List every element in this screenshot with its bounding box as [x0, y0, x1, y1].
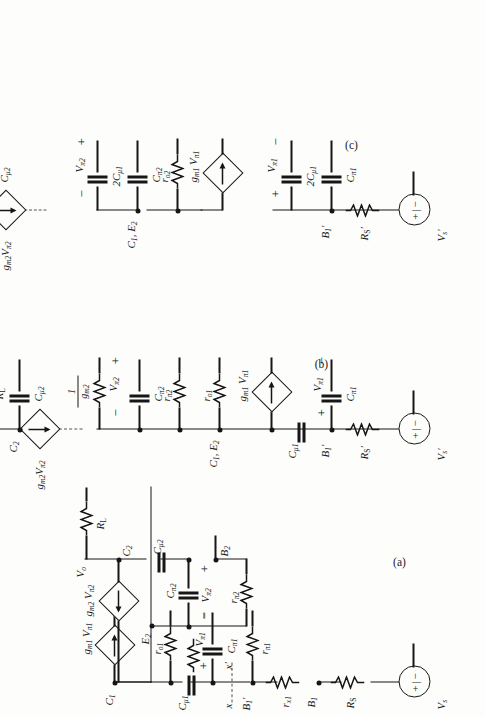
dependent-source-gm2-a — [99, 582, 137, 620]
ground-icon-rpi2-b — [170, 343, 188, 357]
ground-icon-cpi2-c — [128, 126, 146, 140]
panel-caption-b: (b) — [314, 357, 327, 369]
ground-icon-cpi2-b — [130, 345, 148, 359]
wire-b1p-cpi1-c — [330, 186, 331, 210]
panel-c: +|− Vs′ RS′ B1′ Cπ1 2Cμ1 + − Vπ1 gm1 Vπ1… — [0, 0, 485, 244]
figure-page: +|− Vs RS B1 rx1 B1′ rπ1 x x′ Cπ1 + − Vπ… — [0, 0, 485, 716]
wire-b2-col — [215, 558, 246, 559]
dependent-source-gm2-c — [0, 191, 24, 229]
wire-ro2-c — [176, 188, 177, 210]
wire-cmu2-upper — [118, 558, 146, 559]
wire-b1p-cpi1-b — [330, 405, 331, 429]
panel-a-right: rπ2 B2 Cπ2 − + Vπ2 Cμ2 C2 gm2 Vπ2 Vo RL — [0, 466, 485, 716]
resistor-inv-gm2-b — [92, 373, 106, 407]
label-cpi2-a: Cπ2 — [163, 583, 177, 598]
resistor-ro1-b — [212, 373, 226, 407]
label-vpi1-c: Vπ1 — [265, 158, 278, 172]
label-c2-b: C2 — [7, 441, 20, 452]
panel-caption-c: (c) — [345, 139, 358, 151]
wire-gm1-b — [270, 411, 271, 429]
label-rsprime-b: RS′ — [358, 446, 371, 459]
ground-icon-2cmu1b-c — [88, 126, 106, 140]
resistor-ro2-c — [170, 154, 184, 188]
capacitor-cpi1-c — [321, 172, 341, 186]
wire-invgm2-gnd-b — [98, 357, 99, 373]
polarity-plus-vpi2-a: + — [197, 565, 210, 572]
polarity-plus-vpi1-c: + — [268, 190, 281, 197]
ground-icon-ro2-c — [168, 124, 186, 138]
label-cmu2-b: Cμ2 — [31, 386, 45, 401]
label-vpi2-c: Vπ2 — [73, 158, 86, 172]
dependent-source-gm2-b — [20, 410, 58, 448]
wire-rail-gm2 — [116, 681, 151, 682]
label-vsprime-c: Vs′ — [435, 229, 448, 241]
wire-gm1-gnd-b — [270, 357, 271, 373]
label-rl-a: RL — [93, 518, 107, 529]
rail-c-2cmu1b — [96, 209, 138, 210]
label-cpi1-b: Cπ1 — [343, 386, 357, 401]
ground-icon-vs-b — [404, 376, 422, 390]
wire-cpi2-gnd-c — [136, 140, 137, 172]
dependent-source-gm1-b — [252, 373, 290, 411]
wire-2cmu1b-gnd-c — [96, 140, 97, 172]
wire-rpi2-b — [178, 407, 179, 429]
polarity-minus-vpi2-c: − — [74, 190, 87, 197]
label-vpi2-a: Vπ2 — [199, 588, 212, 602]
ground-icon-cpi1-c — [322, 126, 340, 140]
capacitor-2cmu1b-c — [87, 172, 107, 186]
capacitor-cpi2-c — [127, 172, 147, 186]
wire-cmu2-gnd-b — [18, 359, 19, 391]
ground-icon-2cmu1-c — [282, 126, 300, 140]
wire-b2-gnd — [214, 535, 215, 559]
wire-cpi2-c — [136, 186, 137, 210]
polarity-plus-vpi2-b: + — [108, 357, 121, 364]
voltage-source-vsprime-c: +|− — [398, 193, 430, 225]
capacitor-cmu1-b — [294, 422, 308, 442]
wire-vo-rl — [85, 535, 86, 559]
label-gm2vpi2-b: gm2Vπ2 — [33, 460, 46, 489]
rail-c-input — [272, 209, 412, 210]
label-vo-a: Vo — [74, 566, 87, 577]
label-cmu2-c: Cμ2 — [0, 167, 11, 182]
ground-icon-cmu2-b — [10, 345, 28, 359]
wire-cpi2-b — [138, 405, 139, 429]
capacitor-cpi2-b — [129, 391, 149, 405]
wire-e2-rpi2 — [245, 608, 246, 626]
label-c1e2-b: C1, E2 — [207, 440, 220, 467]
wire-gm2-c2 — [117, 560, 118, 582]
label-cpi2-b: Cπ2 — [151, 386, 165, 401]
ground-icon-rl-a — [77, 473, 95, 487]
dependent-source-gm1-c — [203, 154, 241, 192]
ground-icon-gm1-b — [262, 343, 280, 357]
wire-c2-cmu2-b — [18, 405, 19, 429]
label-vpi2-b: Vπ2 — [107, 377, 120, 391]
wire-2cmu1-gnd-c — [290, 140, 291, 172]
wire-vsprime-gnd-c — [412, 171, 413, 195]
label-c2-a: C2 — [120, 545, 133, 556]
ground-icon-invgm2-b — [90, 343, 108, 357]
label-gm1vpi1-c: gm1 Vπ1 — [187, 150, 200, 182]
label-2cmu1b-c: 2Cμ1 — [109, 166, 123, 186]
wire-invgm2-b — [98, 407, 99, 429]
voltage-source-vsprime-b: +|− — [398, 412, 430, 444]
label-one-over-gm2-b: 1 gm2 — [66, 375, 90, 407]
wire-gm1-c — [221, 192, 222, 210]
wire-gm2-left — [117, 620, 118, 682]
wire-e2-cpi2 — [187, 602, 188, 626]
label-vsprime-b: Vs′ — [435, 448, 448, 460]
rotated-figure-container: +|− Vs RS B1 rx1 B1′ rπ1 x x′ Cπ1 + − Vπ… — [0, 0, 485, 716]
label-rsprime-c: RS′ — [358, 227, 371, 240]
capacitor-cpi2-a — [178, 588, 198, 602]
rail-c-mid — [146, 209, 202, 210]
wire-gm1-gnd-c — [221, 138, 222, 154]
resistor-rpi2-a2 — [239, 574, 253, 608]
wire-2cmu1-c — [290, 186, 291, 210]
source-polarity-c: +|− — [399, 194, 429, 224]
wire-ro2-gnd-c — [176, 138, 177, 154]
label-cmu2-a: Cμ2 — [150, 539, 164, 554]
label-ro1-b: ro1 — [199, 389, 213, 401]
polarity-minus-vpi2-a: − — [197, 612, 210, 619]
label-b2-a: B2 — [218, 545, 231, 556]
label-b1prime-c: B1′ — [319, 225, 332, 238]
ground-icon-ro1-b — [210, 343, 228, 357]
